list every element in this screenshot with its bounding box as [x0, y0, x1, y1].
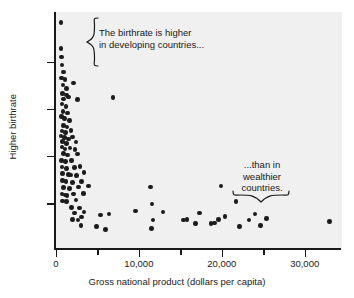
data-point: [81, 191, 86, 196]
y-axis-tick: [47, 109, 54, 110]
data-point: [223, 214, 228, 219]
data-point: [64, 104, 69, 109]
data-point: [63, 159, 68, 164]
data-point: [64, 166, 69, 171]
data-point: [70, 217, 75, 222]
data-point: [61, 185, 66, 190]
data-point: [67, 186, 72, 191]
x-axis-title: Gross national product (dollars per capi…: [0, 277, 354, 287]
x-axis-tick: [263, 250, 264, 255]
data-point: [61, 97, 66, 102]
x-axis-tick-label: 20,000: [207, 259, 236, 269]
data-point: [60, 171, 65, 176]
data-point: [197, 211, 202, 216]
y-axis-tick: [47, 62, 54, 63]
data-point: [69, 158, 74, 163]
data-point: [72, 211, 77, 216]
y-axis-line: [54, 12, 56, 250]
data-point: [68, 173, 73, 178]
x-axis-tick: [222, 250, 223, 257]
data-point: [69, 205, 74, 210]
y-axis-tick: [47, 203, 54, 204]
data-point: [72, 165, 77, 170]
data-point: [64, 141, 69, 146]
annotation-text-developing: The birthrate is higher in developing co…: [99, 27, 204, 50]
data-point: [258, 223, 263, 228]
data-point: [79, 215, 84, 220]
data-point: [79, 223, 84, 228]
data-point: [77, 206, 82, 211]
data-point: [64, 179, 69, 184]
data-point: [64, 86, 69, 91]
data-point: [73, 147, 78, 152]
x-axis-tick-label: 0: [53, 259, 58, 269]
x-axis-tick: [97, 250, 98, 255]
x-axis-tick: [180, 250, 181, 255]
y-axis-tick: [47, 156, 54, 157]
data-point: [94, 224, 99, 229]
data-point: [69, 128, 74, 133]
data-point: [74, 173, 79, 178]
data-point: [149, 226, 154, 231]
data-point: [63, 130, 68, 135]
data-point: [78, 164, 83, 169]
data-point: [75, 97, 80, 102]
x-axis-tick: [305, 250, 306, 257]
x-axis-tick: [56, 250, 57, 257]
data-point: [264, 216, 269, 221]
annotation-brace-developing: [84, 17, 100, 67]
data-point: [79, 179, 84, 184]
data-point: [76, 185, 81, 190]
data-point: [103, 227, 108, 232]
x-axis-tick: [139, 250, 140, 257]
data-point: [67, 118, 72, 123]
data-point: [60, 165, 65, 170]
y-axis-title: Higher birthrate: [8, 67, 18, 187]
data-point: [237, 224, 242, 229]
data-point: [66, 95, 71, 100]
data-point: [216, 217, 221, 222]
data-point: [193, 221, 198, 226]
data-point: [70, 180, 75, 185]
data-point: [327, 219, 332, 224]
data-point: [86, 184, 91, 189]
data-point: [64, 199, 69, 204]
annotation-text-wealthy: ...than in wealthier countries.: [232, 159, 292, 194]
data-point: [59, 20, 64, 25]
x-axis-tick-label: 30,000: [290, 259, 319, 269]
data-point: [71, 81, 76, 86]
scatter-plot-figure: 010,00020,00030,000 Gross national produ…: [0, 0, 354, 298]
data-point: [65, 111, 70, 116]
data-point: [59, 55, 64, 60]
x-axis-tick-label: 10,000: [124, 259, 153, 269]
